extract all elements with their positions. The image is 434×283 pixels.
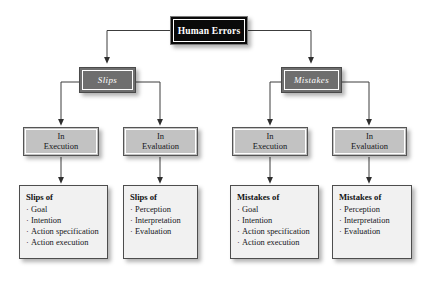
node-slips-inner: Slips [82,70,133,90]
leaf-mistakes-of-evaluation[interactable]: Mistakes of ·Perception ·Interpretation … [332,185,412,259]
list-item: ·Evaluation [339,227,406,238]
list-item-label: Intention [31,216,61,225]
node-human-errors-inner: Human Errors [173,19,245,42]
list-item: ·Action specification [26,227,102,238]
node-slips[interactable]: Slips [79,67,136,93]
edge-root-to-mistakes [248,31,311,61]
node-mistakes-label: Mistakes [294,75,329,85]
node-mistakes-in-execution-line2: Execution [253,142,287,152]
leaf-mistakes-of-execution-list: ·Goal ·Intention ·Action specification ·… [237,205,313,249]
list-item: ·Action execution [237,238,313,249]
node-slips-in-execution-inner: In Execution [25,129,97,154]
list-item: ·Goal [237,205,313,216]
leaf-slips-of-evaluation-title: Slips of [130,192,192,202]
node-human-errors-label: Human Errors [178,26,241,36]
node-mistakes[interactable]: Mistakes [281,67,342,93]
node-slips-in-evaluation-line2: Evaluation [142,142,179,152]
list-item-label: Goal [31,205,47,214]
leaf-slips-of-execution[interactable]: Slips of ·Goal ·Intention ·Action specif… [19,185,108,259]
node-slips-in-evaluation[interactable]: In Evaluation [123,127,198,156]
leaf-slips-of-execution-title: Slips of [26,192,102,202]
list-item: ·Goal [26,205,102,216]
leaf-mistakes-of-evaluation-list: ·Perception ·Interpretation ·Evaluation [339,205,406,238]
leaf-slips-of-evaluation-list: ·Perception ·Interpretation ·Evaluation [130,205,192,238]
list-item: ·Intention [26,216,102,227]
list-item: ·Interpretation [339,216,406,227]
node-human-errors[interactable]: Human Errors [170,16,248,45]
leaf-slips-of-evaluation[interactable]: Slips of ·Perception ·Interpretation ·Ev… [123,185,198,259]
list-item: ·Perception [130,205,192,216]
node-slips-in-execution-line2: Execution [44,142,78,152]
leaf-mistakes-of-execution-title: Mistakes of [237,192,313,202]
list-item-label: Evaluation [344,227,380,236]
node-mistakes-in-evaluation-inner: In Evaluation [334,129,405,154]
list-item: ·Intention [237,216,313,227]
node-mistakes-in-evaluation[interactable]: In Evaluation [332,127,407,156]
node-mistakes-inner: Mistakes [284,70,339,90]
list-item-label: Action execution [242,238,299,247]
node-mistakes-in-execution-inner: In Execution [234,129,306,154]
list-item-label: Evaluation [135,227,171,236]
list-item: ·Interpretation [130,216,192,227]
node-slips-in-execution[interactable]: In Execution [23,127,99,156]
list-item-label: Perception [135,205,171,214]
node-slips-label: Slips [98,75,118,85]
human-errors-diagram: Human Errors Slips Mistakes In Execution… [0,0,434,283]
leaf-mistakes-of-evaluation-title: Mistakes of [339,192,406,202]
list-item: ·Perception [339,205,406,216]
list-item: ·Action specification [237,227,313,238]
list-item-label: Interpretation [344,216,390,225]
list-item-label: Goal [242,205,258,214]
list-item-label: Action specification [242,227,310,236]
list-item: ·Action execution [26,238,102,249]
list-item-label: Perception [344,205,380,214]
list-item: ·Evaluation [130,227,192,238]
list-item-label: Interpretation [135,216,181,225]
node-slips-in-evaluation-inner: In Evaluation [125,129,196,154]
list-item-label: Action execution [31,238,88,247]
node-mistakes-in-evaluation-line2: Evaluation [351,142,388,152]
edge-root-to-slips [107,31,170,61]
leaf-mistakes-of-execution[interactable]: Mistakes of ·Goal ·Intention ·Action spe… [230,185,319,259]
list-item-label: Intention [242,216,272,225]
leaf-slips-of-execution-list: ·Goal ·Intention ·Action specification ·… [26,205,102,249]
node-mistakes-in-execution[interactable]: In Execution [232,127,308,156]
list-item-label: Action specification [31,227,99,236]
